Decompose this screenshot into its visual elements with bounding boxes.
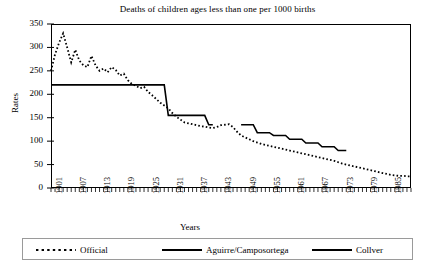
legend-label: Aguirre/Camposortega — [206, 245, 288, 255]
x-tick-label: 1919 — [127, 177, 136, 194]
x-tick-label: 1985 — [394, 177, 403, 194]
x-tick-label: 1961 — [297, 177, 306, 194]
legend-item[interactable]: Official — [35, 239, 108, 261]
series-line-collver — [51, 85, 213, 125]
legend-swatch-solid-icon — [161, 246, 203, 254]
x-tick-label: 1913 — [103, 177, 112, 194]
y-tick-label: 100 — [13, 136, 43, 145]
x-tick-label: 1973 — [346, 177, 355, 194]
y-tick-label: 50 — [13, 160, 43, 169]
x-tick-label: 1979 — [370, 177, 379, 194]
chart-graphics — [0, 0, 435, 274]
legend-label: Official — [80, 245, 108, 255]
chart-container: Deaths of children ages less than one pe… — [0, 0, 435, 274]
x-tick-label: 1925 — [152, 177, 161, 194]
y-tick-label: 200 — [13, 89, 43, 98]
legend-swatch-dashed-icon — [35, 246, 77, 254]
y-tick-label: 150 — [13, 113, 43, 122]
legend-label: Collver — [356, 245, 383, 255]
x-tick-label: 1937 — [200, 177, 209, 194]
series-line-official — [51, 33, 411, 176]
x-tick-label: 1907 — [79, 177, 88, 194]
x-tick-label: 1943 — [224, 177, 233, 194]
x-tick-label: 1967 — [321, 177, 330, 194]
y-tick-label: 300 — [13, 42, 43, 51]
legend-item[interactable]: Collver — [311, 239, 383, 261]
y-tick-label: 350 — [13, 19, 43, 28]
x-tick-label: 1931 — [176, 177, 185, 194]
x-tick-label: 1901 — [55, 177, 64, 194]
y-tick-label: 0 — [13, 183, 43, 192]
legend-item[interactable]: Aguirre/Camposortega — [161, 239, 288, 261]
y-tick-label: 250 — [13, 66, 43, 75]
x-tick-label: 1955 — [273, 177, 282, 194]
chart-legend: OfficialAguirre/CamposortegaCollver — [22, 238, 413, 260]
legend-swatch-solid-icon — [311, 246, 353, 254]
series-line-aguirre-camposortega — [241, 125, 346, 151]
x-tick-label: 1949 — [249, 177, 258, 194]
